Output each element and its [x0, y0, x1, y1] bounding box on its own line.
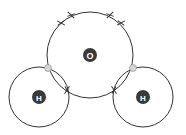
cross-icon	[109, 85, 120, 96]
hydrogen-right-label: H	[140, 94, 146, 103]
water-molecule-diagram: O H H	[0, 0, 186, 135]
shared-electron-dots	[45, 65, 137, 72]
nuclei: O H H	[32, 48, 150, 104]
cross-icon	[115, 17, 126, 28]
hydrogen-left-label: H	[36, 94, 42, 103]
oxygen-label: O	[86, 51, 93, 61]
dot-icon	[45, 65, 52, 72]
dot-icon	[130, 65, 137, 72]
electron-shells	[9, 12, 173, 127]
